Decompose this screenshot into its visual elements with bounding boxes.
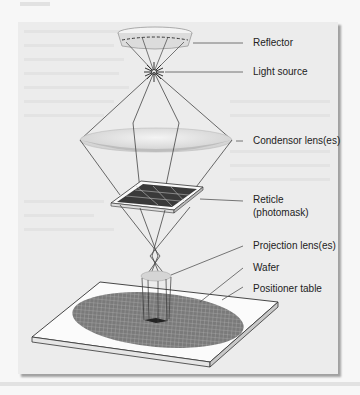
label-wafer: Wafer (253, 262, 279, 274)
projection-lens-icon (141, 271, 171, 281)
lithography-diagram (0, 0, 360, 395)
label-reticle: Reticle (253, 194, 284, 206)
light-rays-to-projection (120, 205, 190, 276)
condensor-lens-icon (80, 128, 232, 152)
label-photomask: (photomask) (253, 207, 309, 219)
label-light-source: Light source (253, 66, 307, 78)
label-positioner-table: Positioner table (253, 283, 322, 295)
label-condensor-lens: Condensor lens(es) (253, 135, 340, 147)
leader-lines (165, 43, 243, 302)
label-reflector: Reflector (253, 37, 293, 49)
label-projection-lens: Projection lens(es) (253, 240, 336, 252)
